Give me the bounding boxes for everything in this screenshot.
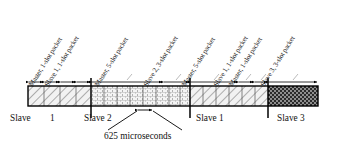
slot-duration-caption: 625 microseconds — [104, 131, 171, 141]
bottom-label-slave-3: Slave 3 — [277, 113, 305, 123]
bottom-label-slave: Slave — [10, 113, 31, 123]
region-slave2 — [91, 86, 190, 106]
piconet-timing-figure: Master, 1-slot packet Slave 1, 1-slot pa… — [0, 0, 350, 156]
region-slave3 — [268, 86, 318, 106]
slot-duration-marker — [108, 110, 182, 130]
bottom-label-slave-1: Slave 1 — [196, 113, 224, 123]
bottom-label-slave-1-num: 1 — [50, 113, 55, 123]
label-leader-lines — [36, 74, 298, 80]
timeline-bar — [28, 86, 318, 106]
region-slave1-a — [28, 86, 91, 106]
bottom-label-slave-2: Slave 2 — [84, 113, 112, 123]
